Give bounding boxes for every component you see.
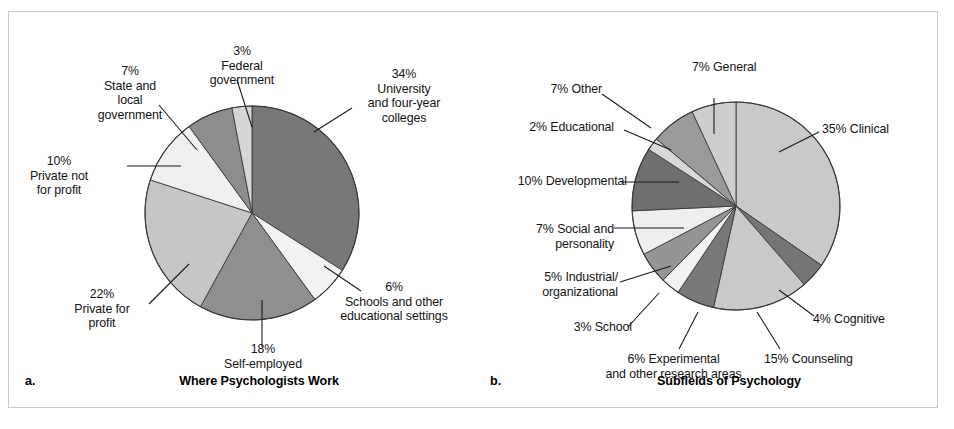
label-educational: 2% Educational [474, 120, 614, 135]
label-university-and-four-year-colleges: 34% University and four-year colleges [339, 67, 469, 125]
label-counseling: 15% Counseling [764, 352, 914, 367]
label-cognitive: 4% Cognitive [813, 312, 933, 327]
leader-line [757, 312, 780, 349]
label-clinical: 35% Clinical [822, 122, 942, 137]
label-schools-and-other-educational-settings: 6% Schools and other educational setting… [309, 280, 479, 324]
leader-line [628, 293, 659, 327]
label-other: 7% Other [492, 82, 602, 97]
leader-line [679, 312, 698, 349]
label-private-for-profit: 22% Private for profit [47, 287, 157, 331]
label-general: 7% General [692, 60, 822, 75]
label-private-not-for-profit: 10% Private not for profit [4, 154, 114, 198]
label-social-and-personality: 7% Social and personality [468, 222, 614, 251]
panel-b-subfields-of-psychology: 7% General 7% Other 2% Educational 10% D… [474, 12, 939, 409]
panel-a-letter: a. [25, 374, 36, 388]
figure-container: 7% State and local government 3% Federal… [0, 0, 954, 429]
panel-a-where-psychologists-work: 7% State and local government 3% Federal… [9, 12, 474, 409]
panel-b-letter: b. [490, 374, 501, 388]
label-self-employed: 18% Self-employed [193, 342, 333, 371]
panel-a-caption: Where Psychologists Work [119, 374, 399, 388]
label-federal-government: 3% Federal government [177, 44, 307, 88]
label-school: 3% School [514, 320, 632, 335]
label-developmental: 10% Developmental [452, 174, 627, 189]
label-industrial-organizational: 5% Industrial/ organizational [478, 270, 618, 299]
figure-frame: 7% State and local government 3% Federal… [8, 11, 938, 408]
panel-b-caption: Subfields of Psychology [584, 374, 874, 388]
leader-line [779, 290, 814, 316]
label-state-and-local-government: 7% State and local government [65, 64, 195, 122]
